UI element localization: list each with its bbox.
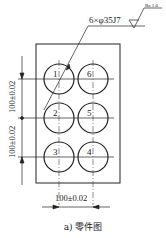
vertical-dim-upper: 100±0.02 [7,81,17,113]
hole-label-3: 3 [53,147,58,157]
hole-label-1: 1 [53,69,58,79]
hole-label-2: 2 [53,108,58,118]
hole-label-5: 5 [87,108,92,118]
figure-caption: a) 零件图 [0,220,166,233]
hole-label-4: 4 [87,147,92,157]
roughness-symbol-icon [129,8,162,28]
vertical-dim-lower: 100±0.02 [7,126,17,158]
vertical-dimension [20,56,24,185]
hole-label-6: 6 [87,69,92,79]
part-drawing: 1 6 2 5 3 4 6×φ35J7 Ra 1.6 100±0.02 100±… [0,0,166,238]
roughness-value: Ra 1.6 [145,3,159,8]
hole-spec: 6×φ35J7 [89,15,121,25]
row-lines [18,79,114,157]
horizontal-dim: 100±0.02 [55,193,87,203]
horizontal-dimension [42,205,110,209]
